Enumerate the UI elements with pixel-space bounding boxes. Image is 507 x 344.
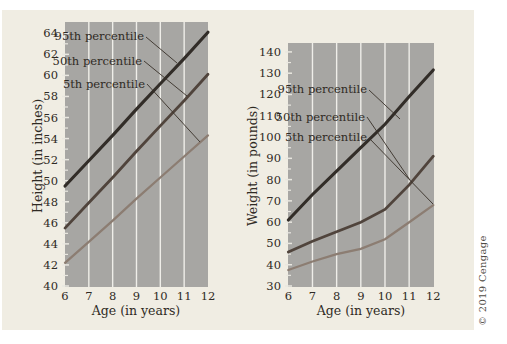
x-tick-label: 8 (333, 289, 340, 303)
y-tick-label: 100 (259, 130, 281, 144)
x-tick-label: 6 (285, 289, 292, 303)
y-tick-label: 52 (43, 153, 58, 167)
y-tick-label: 56 (43, 111, 58, 125)
x-tick-label: 7 (85, 289, 92, 303)
y-tick-label: 60 (43, 68, 58, 82)
figure: 404244464850525456586062646789101112Age … (0, 0, 507, 344)
chart-height: 404244464850525456586062646789101112Age … (30, 22, 215, 318)
x-tick-label: 11 (402, 289, 417, 303)
x-tick-label: 8 (109, 289, 116, 303)
y-axis-title: Height (in inches) (30, 99, 45, 213)
series-label-50th-percentile: 50th percentile (276, 110, 366, 124)
x-tick-label: 9 (357, 289, 364, 303)
x-tick-label: 7 (309, 289, 316, 303)
series-label-5th-percentile: 5th percentile (285, 130, 367, 144)
x-tick-label: 10 (153, 289, 168, 303)
x-tick-label: 11 (177, 289, 192, 303)
y-tick-label: 50 (43, 174, 58, 188)
x-axis-title: Age (in years) (91, 303, 180, 318)
y-tick-label: 60 (266, 215, 281, 229)
x-axis-title: Age (in years) (316, 303, 405, 318)
y-tick-label: 40 (43, 279, 58, 293)
x-tick-label: 9 (133, 289, 140, 303)
y-tick-label: 70 (266, 194, 281, 208)
y-tick-label: 54 (43, 132, 58, 146)
x-tick-label: 12 (426, 289, 441, 303)
series-label-50th-percentile: 50th percentile (53, 54, 143, 68)
series-label-95th-percentile: 95th percentile (278, 82, 368, 96)
y-tick-label: 90 (266, 151, 281, 165)
y-axis-title: Weight (in pounds) (245, 106, 260, 226)
x-tick-label: 6 (61, 289, 68, 303)
growth-percentile-charts: 404244464850525456586062646789101112Age … (0, 0, 507, 344)
chart-weight: 304050607080901001101201301406789101112A… (245, 43, 441, 318)
y-tick-label: 46 (43, 216, 58, 230)
x-tick-label: 12 (201, 289, 216, 303)
copyright-credit: © 2019 Cengage (477, 235, 488, 326)
y-tick-label: 44 (43, 237, 58, 251)
y-tick-label: 48 (43, 195, 58, 209)
series-label-95th-percentile: 95th percentile (55, 29, 145, 43)
y-tick-label: 140 (259, 45, 281, 59)
y-tick-label: 42 (43, 258, 58, 272)
y-tick-label: 30 (266, 279, 281, 293)
y-tick-label: 58 (43, 89, 58, 103)
series-label-5th-percentile: 5th percentile (63, 77, 145, 91)
y-tick-label: 50 (266, 236, 281, 250)
y-tick-label: 80 (266, 173, 281, 187)
y-tick-label: 40 (266, 258, 281, 272)
y-tick-label: 130 (259, 66, 281, 80)
x-tick-label: 10 (378, 289, 393, 303)
